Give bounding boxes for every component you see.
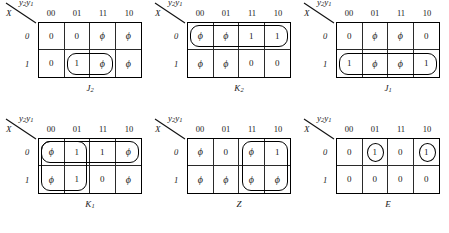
- kmap-cell-value: ϕ: [275, 175, 280, 185]
- kmap-cell: ϕ: [239, 139, 265, 166]
- kmap-j1: y2y1X00011110010ϕϕ01ϕϕ1J1: [302, 0, 443, 112]
- kmap-cell-value: ϕ: [398, 59, 403, 69]
- kmap-cell-value: 1: [249, 32, 254, 41]
- kmap-caption: J1: [336, 84, 440, 94]
- kmap-cell: 0: [337, 166, 363, 193]
- column-header: 10: [265, 122, 291, 136]
- column-variable-label: y2y1: [19, 0, 34, 8]
- kmap-cell: ϕ: [363, 23, 389, 50]
- kmap-cell-value: 0: [347, 32, 352, 41]
- kmap-caption: Z: [187, 200, 291, 209]
- column-variable-label: y2y1: [19, 114, 34, 124]
- column-headers: 00011110: [336, 122, 440, 136]
- kmap-cell: 1: [414, 139, 440, 166]
- kmap-cell-value: 0: [49, 32, 54, 41]
- kmap-cell: 0: [65, 23, 91, 50]
- column-headers: 00011110: [187, 6, 291, 20]
- row-headers: 01: [167, 138, 185, 194]
- kmap-cell-value: 0: [424, 175, 429, 184]
- kmap-cell-value: 1: [424, 59, 429, 68]
- kmap-cell-value: ϕ: [398, 31, 403, 41]
- kmap-cell: ϕ: [388, 50, 414, 77]
- kmap-cell: 0: [239, 50, 265, 77]
- kmap-cell-value: ϕ: [49, 175, 54, 185]
- column-header: 00: [38, 6, 64, 20]
- row-headers: 01: [316, 22, 334, 78]
- kmap-cell-value: 1: [275, 148, 280, 157]
- kmap-cell: 0: [414, 166, 440, 193]
- row-headers: 01: [18, 138, 36, 194]
- kmap-cell: ϕ: [39, 139, 65, 166]
- kmap-cell-value: ϕ: [100, 59, 105, 69]
- kmap-cell: 0: [337, 23, 363, 50]
- row-variable-label: X: [6, 125, 12, 134]
- kmap-cell-value: 0: [49, 59, 54, 68]
- kmap-cell: 0: [414, 23, 440, 50]
- kmap-cell-value: ϕ: [126, 59, 131, 69]
- kmap-k1: y2y1X0001111001ϕ11ϕϕ10ϕK1: [4, 116, 145, 228]
- column-header: 01: [213, 6, 239, 20]
- kmap-cell-value: 1: [424, 148, 429, 157]
- kmap-cell-value: 0: [373, 175, 378, 184]
- kmap-caption: K1: [38, 200, 142, 210]
- column-headers: 00011110: [38, 6, 142, 20]
- kmap-cell: 0: [90, 166, 116, 193]
- column-header: 10: [414, 122, 440, 136]
- kmap-cell-value: 1: [75, 59, 80, 68]
- kmap-cell: ϕ: [188, 139, 214, 166]
- column-headers: 00011110: [336, 6, 440, 20]
- column-variable-label: y2y1: [168, 114, 183, 124]
- kmap-cell: 0: [39, 50, 65, 77]
- kmap-cell-value: 0: [224, 148, 229, 157]
- kmap-cell: 0: [388, 166, 414, 193]
- kmap-cell-value: ϕ: [223, 31, 228, 41]
- kmap-caption: J2: [38, 84, 142, 94]
- column-variable-label: y2y1: [317, 114, 332, 124]
- row-header: 0: [18, 138, 36, 166]
- kmap-cell: 1: [337, 50, 363, 77]
- kmap-cell: ϕ: [116, 166, 142, 193]
- kmap-cell: ϕ: [388, 23, 414, 50]
- kmap-caption-subscript: 1: [388, 86, 391, 93]
- kmap-cell-value: 0: [275, 59, 280, 68]
- kmap-j2: y2y1X000111100100ϕϕ01ϕϕJ2: [4, 0, 145, 112]
- column-header: 11: [90, 6, 116, 20]
- row-header: 0: [316, 138, 334, 166]
- column-header: 11: [388, 122, 414, 136]
- kmap-cell-value: 1: [347, 59, 352, 68]
- column-header: 01: [362, 122, 388, 136]
- column-header: 00: [336, 122, 362, 136]
- column-variable-label: y2y1: [317, 0, 332, 8]
- kmap-corner-header: y2y1X: [302, 116, 336, 140]
- kmap-cell-value: 0: [347, 148, 352, 157]
- kmap-cell-value: ϕ: [249, 147, 254, 157]
- kmap-cell-value: ϕ: [249, 175, 254, 185]
- kmap-cell-value: 1: [275, 32, 280, 41]
- kmap-e: y2y1X000111100101010000E: [302, 116, 443, 228]
- row-header: 0: [18, 22, 36, 50]
- kmap-cell-value: ϕ: [223, 175, 228, 185]
- column-header: 00: [187, 6, 213, 20]
- kmap-cell-value: 0: [75, 32, 80, 41]
- kmap-cell: ϕ: [239, 166, 265, 193]
- kmap-grid: 00ϕϕ01ϕϕ: [38, 22, 142, 78]
- kmap-cell: 1: [65, 139, 91, 166]
- kmap-corner-header: y2y1X: [153, 116, 187, 140]
- column-header: 01: [362, 6, 388, 20]
- kmap-caption-subscript: 2: [240, 86, 243, 93]
- kmap-cell: 0: [39, 23, 65, 50]
- kmap-cell-value: ϕ: [198, 175, 203, 185]
- kmap-corner-header: y2y1X: [302, 0, 336, 24]
- kmap-cell: ϕ: [116, 139, 142, 166]
- column-header: 01: [64, 122, 90, 136]
- kmap-cell: 0: [214, 139, 240, 166]
- kmap-cell: 1: [265, 139, 291, 166]
- row-variable-label: X: [304, 9, 310, 18]
- kmap-grid: ϕ0ϕ1ϕϕϕϕ: [187, 138, 291, 194]
- row-header: 1: [316, 166, 334, 194]
- column-header: 11: [388, 6, 414, 20]
- kmap-corner-header: y2y1X: [4, 0, 38, 24]
- kmap-cell: ϕ: [116, 50, 142, 77]
- kmap-grid: ϕϕ11ϕϕ00: [187, 22, 291, 78]
- kmap-cell-value: ϕ: [198, 147, 203, 157]
